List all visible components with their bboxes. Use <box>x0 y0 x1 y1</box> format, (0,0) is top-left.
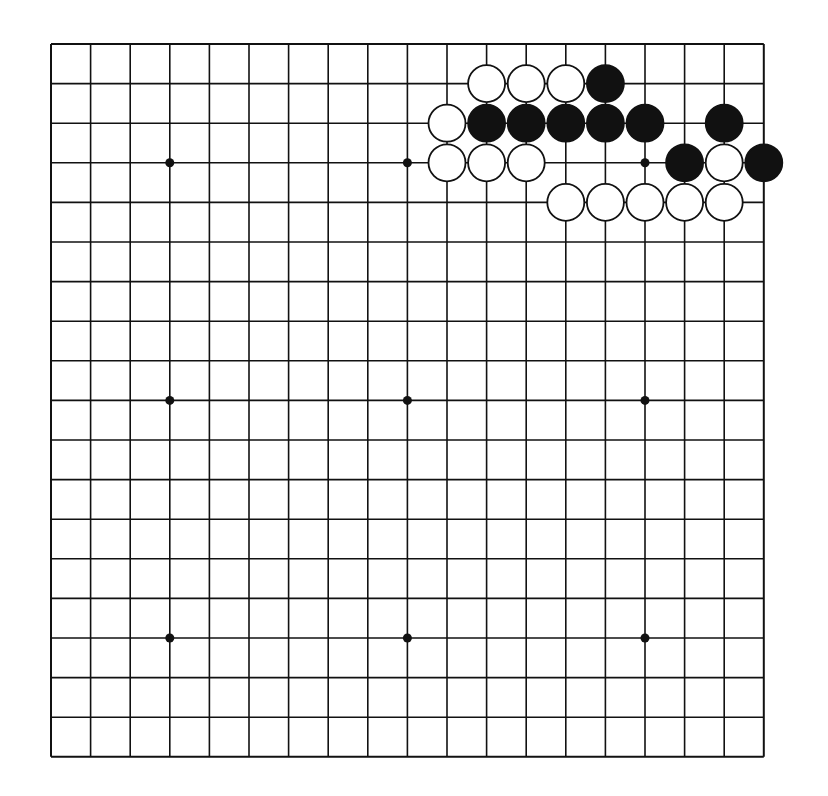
star-point <box>641 396 650 405</box>
white-stone <box>666 184 703 221</box>
white-stone <box>468 144 505 181</box>
white-stone <box>587 184 624 221</box>
go-board <box>0 0 828 796</box>
white-stone <box>468 65 505 102</box>
star-point <box>165 396 174 405</box>
black-stone <box>745 144 782 181</box>
black-stone <box>627 105 664 142</box>
black-stone <box>587 65 624 102</box>
white-stone <box>547 65 584 102</box>
star-point <box>403 634 412 643</box>
star-point <box>165 158 174 167</box>
black-stone <box>587 105 624 142</box>
white-stone <box>627 184 664 221</box>
black-stone <box>666 144 703 181</box>
white-stone <box>508 65 545 102</box>
star-point <box>403 158 412 167</box>
white-stone <box>547 184 584 221</box>
black-stone <box>468 105 505 142</box>
star-point <box>403 396 412 405</box>
black-stone <box>706 105 743 142</box>
star-point <box>165 634 174 643</box>
white-stone <box>508 144 545 181</box>
star-point <box>641 158 650 167</box>
white-stone <box>706 144 743 181</box>
white-stone <box>429 144 466 181</box>
black-stone <box>508 105 545 142</box>
white-stone <box>706 184 743 221</box>
star-point <box>641 634 650 643</box>
white-stone <box>429 105 466 142</box>
black-stone <box>547 105 584 142</box>
